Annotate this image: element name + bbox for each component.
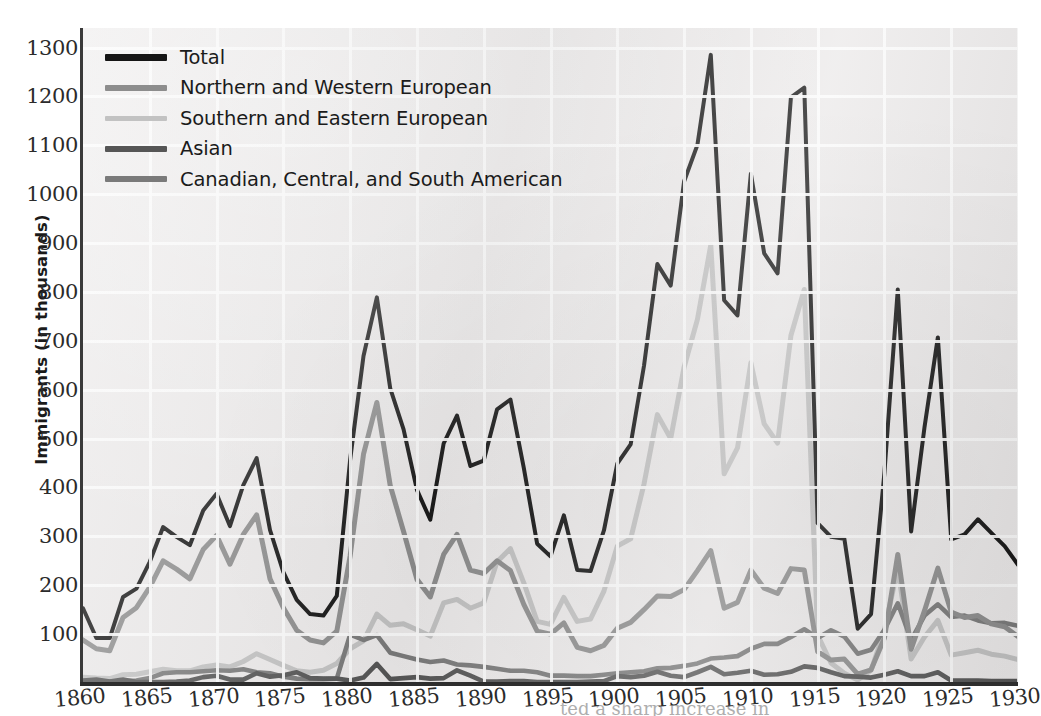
caption-text: ted a sharp increase in bbox=[560, 703, 769, 716]
legend-item[interactable]: Southern and Eastern European bbox=[105, 103, 625, 134]
caption-strip: ted a sharp increase in bbox=[0, 703, 1018, 716]
gridline-vertical bbox=[950, 28, 953, 683]
y-tick-label: 900 bbox=[16, 231, 78, 255]
y-axis-line bbox=[80, 28, 83, 685]
y-tick-label: 1200 bbox=[16, 84, 78, 108]
legend-label: Total bbox=[180, 46, 225, 69]
y-tick-label: 1000 bbox=[16, 182, 78, 206]
legend-item[interactable]: Northern and Western European bbox=[105, 73, 625, 104]
legend-label: Northern and Western European bbox=[180, 76, 492, 99]
y-tick-label: 300 bbox=[16, 524, 78, 548]
y-tick-label: 1100 bbox=[16, 133, 78, 157]
gridline-vertical bbox=[817, 28, 820, 683]
y-tick-label: 600 bbox=[16, 378, 78, 402]
gridline-vertical bbox=[1017, 28, 1018, 683]
gridline-vertical bbox=[883, 28, 886, 683]
y-axis-ticks: 1002003004005006007008009001000110012001… bbox=[12, 0, 78, 716]
y-tick-label: 100 bbox=[16, 622, 78, 646]
legend-item[interactable]: Asian bbox=[105, 134, 625, 165]
y-tick-label: 700 bbox=[16, 329, 78, 353]
legend-swatch-icon bbox=[105, 85, 167, 91]
legend-item[interactable]: Total bbox=[105, 42, 625, 73]
y-tick-label: 1300 bbox=[16, 36, 78, 60]
y-tick-label: 500 bbox=[16, 427, 78, 451]
legend-label: Southern and Eastern European bbox=[180, 107, 488, 130]
gridline-vertical bbox=[750, 28, 753, 683]
y-tick-label: 200 bbox=[16, 573, 78, 597]
gridline-vertical bbox=[683, 28, 686, 683]
legend-label: Canadian, Central, and South American bbox=[180, 168, 563, 191]
legend-swatch-icon bbox=[105, 116, 167, 121]
legend-swatch-icon bbox=[105, 176, 167, 182]
legend-item[interactable]: Canadian, Central, and South American bbox=[105, 164, 625, 195]
legend-label: Asian bbox=[180, 137, 233, 160]
y-tick-label: 800 bbox=[16, 280, 78, 304]
legend-swatch-icon bbox=[105, 146, 167, 152]
legend-swatch-icon bbox=[105, 54, 167, 61]
y-tick-label: 400 bbox=[16, 475, 78, 499]
legend: TotalNorthern and Western EuropeanSouthe… bbox=[105, 42, 625, 195]
